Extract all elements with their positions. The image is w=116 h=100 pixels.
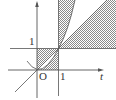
region-diagram: 1 O 1 t: [0, 0, 116, 100]
y-tick-label: 1: [29, 35, 35, 47]
y-axis-arrow-icon: [35, 1, 39, 7]
x-axis-label: t: [100, 70, 104, 82]
origin-label: O: [39, 70, 47, 82]
x-tick-label: 1: [60, 70, 66, 82]
